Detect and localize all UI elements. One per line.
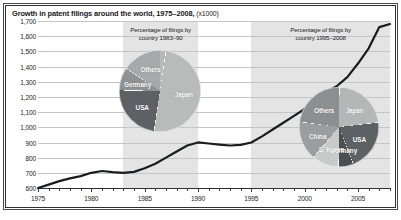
pie-slice-label-usa: USA <box>353 135 366 142</box>
x-tick-2000 <box>305 188 306 192</box>
x-tick-1993 <box>230 188 231 191</box>
x-tick-1980 <box>91 188 92 192</box>
x-tick-1990 <box>198 188 199 192</box>
pie-chart-1995-2008: JapanUSAGermanyS. KoreaChinaOthers <box>299 87 379 167</box>
pie-chart-1983-1990: JapanUSAGermanyOthers <box>119 50 201 132</box>
x-tick-1988 <box>177 188 178 191</box>
x-tick-2002 <box>326 188 327 191</box>
y-tick-label-1000: 1,000 <box>20 124 36 131</box>
chart-title: Growth in patent filings around the worl… <box>12 9 219 18</box>
x-tick-1981 <box>102 188 103 191</box>
x-tick-label-2005: 2005 <box>351 195 365 202</box>
x-tick-1989 <box>187 188 188 191</box>
x-tick-1996 <box>262 188 263 191</box>
y-tick-label-600: 600 <box>25 185 36 192</box>
y-tick-label-1100: 1,100 <box>20 109 36 116</box>
x-tick-2007 <box>379 188 380 191</box>
y-tick-label-700: 700 <box>25 169 36 176</box>
x-tick-1986 <box>155 188 156 191</box>
x-tick-label-1985: 1985 <box>138 195 152 202</box>
x-tick-1992 <box>219 188 220 191</box>
chart-title-units: (x1000) <box>196 10 218 17</box>
x-tick-1982 <box>113 188 114 191</box>
x-tick-1997 <box>273 188 274 191</box>
x-tick-1979 <box>81 188 82 191</box>
x-tick-1985 <box>145 188 146 192</box>
y-tick-label-1600: 1,600 <box>20 33 36 40</box>
pie-slice-label-usa: USA <box>136 103 149 110</box>
x-tick-label-1995: 1995 <box>244 195 258 202</box>
pie-slice-label-japan: Japan <box>175 91 193 98</box>
x-tick-label-1990: 1990 <box>191 195 205 202</box>
x-tick-1984 <box>134 188 135 191</box>
y-tick-label-1500: 1,500 <box>20 48 36 55</box>
x-tick-1978 <box>70 188 71 191</box>
x-tick-1998 <box>283 188 284 191</box>
pie-slice-label-china: China <box>309 132 326 139</box>
pie-slice-label-japan: Japan <box>346 106 364 113</box>
x-tick-label-1975: 1975 <box>31 195 45 202</box>
x-tick-2006 <box>369 188 370 191</box>
x-tick-2008 <box>390 188 391 191</box>
x-tick-label-1980: 1980 <box>84 195 98 202</box>
pie-caption-line1: Percentage of filings by <box>123 26 198 34</box>
pie-slice-label-germany: Germany <box>124 81 151 88</box>
y-tick-label-1700: 1,700 <box>20 18 36 25</box>
y-tick-label-1400: 1,400 <box>20 63 36 70</box>
y-tick-label-800: 800 <box>25 154 36 161</box>
y-tick-label-900: 900 <box>25 139 36 146</box>
pie-slice-divider <box>299 87 379 167</box>
x-tick-1983 <box>123 188 124 191</box>
x-tick-1999 <box>294 188 295 191</box>
pie-caption-line2: country 1983–90 <box>123 34 198 42</box>
pie-slice-label-others: Others <box>141 66 161 73</box>
pie-inset-1983-1990: Percentage of filings by country 1983–90… <box>123 21 198 188</box>
x-tick-2005 <box>358 188 359 192</box>
pie-caption-line2: country 1995–2008 <box>251 34 390 42</box>
chart-figure: Growth in patent filings around the worl… <box>0 0 401 220</box>
pie-inset-1983-1990-caption: Percentage of filings by country 1983–90 <box>123 26 198 41</box>
pie-caption-line1: Percentage of filings by <box>251 26 390 34</box>
x-tick-2004 <box>347 188 348 191</box>
y-tick-label-1200: 1,200 <box>20 93 36 100</box>
x-tick-2001 <box>315 188 316 191</box>
x-tick-1991 <box>209 188 210 191</box>
x-tick-1987 <box>166 188 167 191</box>
y-tick-label-1300: 1,300 <box>20 78 36 85</box>
x-tick-1995 <box>251 188 252 192</box>
x-tick-1976 <box>49 188 50 191</box>
pie-slice-label-others: Others <box>314 106 334 113</box>
y-axis-labels: 1,7001,6001,5001,4001,3001,2001,1001,000… <box>6 21 36 188</box>
pie-inset-1995-2008: Percentage of filings by country 1995–20… <box>251 21 390 188</box>
chart-title-text: Growth in patent filings around the worl… <box>12 9 194 18</box>
pie-inset-1995-2008-caption: Percentage of filings by country 1995–20… <box>251 26 390 41</box>
x-tick-2003 <box>337 188 338 191</box>
x-tick-1977 <box>59 188 60 191</box>
x-tick-label-2000: 2000 <box>298 195 312 202</box>
x-tick-1994 <box>241 188 242 191</box>
pie-slice-label-s-korea: S. Korea <box>319 145 344 152</box>
